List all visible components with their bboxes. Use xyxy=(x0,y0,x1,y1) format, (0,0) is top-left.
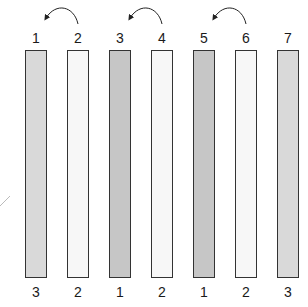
top-label-7: 7 xyxy=(276,30,300,46)
column-bar-3 xyxy=(109,50,131,278)
top-label-4: 4 xyxy=(150,30,174,46)
top-label-2: 2 xyxy=(66,30,90,46)
column-bar-5 xyxy=(193,50,215,278)
top-label-5: 5 xyxy=(192,30,216,46)
column-bar-7 xyxy=(277,50,299,278)
column-bar-6 xyxy=(235,50,257,278)
stray-line-artifact xyxy=(0,0,20,210)
arrow-2-to-1 xyxy=(46,8,78,24)
column-bar-2 xyxy=(67,50,89,278)
top-label-6: 6 xyxy=(234,30,258,46)
bottom-label-5: 1 xyxy=(192,284,216,300)
bottom-label-1: 3 xyxy=(24,284,48,300)
bottom-label-4: 2 xyxy=(150,284,174,300)
column-bar-4 xyxy=(151,50,173,278)
bottom-label-3: 1 xyxy=(108,284,132,300)
arrow-4-to-3 xyxy=(130,8,162,24)
bottom-label-6: 2 xyxy=(234,284,258,300)
top-label-1: 1 xyxy=(24,30,48,46)
bottom-label-2: 2 xyxy=(66,284,90,300)
arrow-6-to-5 xyxy=(214,8,246,24)
column-bar-1 xyxy=(25,50,47,278)
bottom-label-7: 3 xyxy=(276,284,300,300)
top-label-3: 3 xyxy=(108,30,132,46)
